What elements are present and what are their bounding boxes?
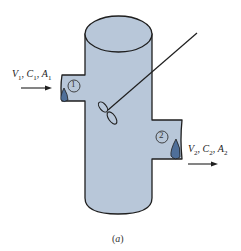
vessel-drawing	[0, 0, 241, 251]
figure-caption: (a)	[112, 233, 124, 244]
station-1-number: 1	[71, 79, 76, 89]
inlet-arrowhead-icon	[45, 86, 52, 91]
caption-paren-close: )	[120, 233, 123, 244]
inlet-area-subscript: 1	[48, 74, 52, 82]
stirred-tank-diagram: 1 2 V1, C1, A1 V2, C2, A2 (a)	[0, 0, 241, 251]
outlet-area-subscript: 2	[224, 149, 228, 157]
vessel-top-ellipse	[85, 16, 152, 52]
outlet-label: V2, C2, A2	[188, 143, 227, 157]
outlet-arrowhead-icon	[211, 162, 218, 167]
inlet-label: V1, C1, A1	[12, 68, 51, 82]
station-2-number: 2	[159, 130, 164, 140]
